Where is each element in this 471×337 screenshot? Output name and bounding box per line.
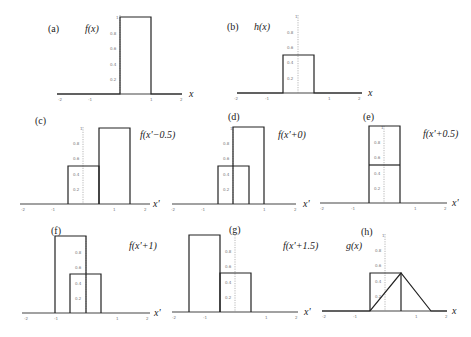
f-curve — [57, 17, 182, 94]
x-tick: -1 — [353, 314, 357, 319]
panel-title-h: g(x) — [346, 240, 363, 252]
y-tick: 0.8 — [375, 248, 382, 253]
y-tick: 0.8 — [73, 141, 80, 146]
f-shifted-curve — [189, 235, 220, 312]
y-tick: 0.4 — [287, 60, 294, 65]
x-tick: -2 — [322, 314, 326, 319]
panel-b: (b) h(x) -2 -1 1 2 0.2 0.4 0.6 0.8 1 x — [227, 14, 373, 101]
y-tick: 0.6 — [225, 264, 232, 269]
y-tick: 0.4 — [73, 172, 80, 177]
panel-label-h: (h) — [361, 226, 373, 238]
panel-title-d: f(x'+0) — [278, 129, 306, 141]
panel-f: (f) f(x'+1) -2 -1 1 2 0.2 0.4 0.6 0.8 x' — [22, 225, 161, 321]
y-tick: 0.6 — [287, 45, 294, 50]
x-tick: -2 — [24, 316, 28, 321]
y-tick: 0.8 — [223, 141, 230, 146]
x-tick: -2 — [58, 97, 62, 102]
x-tick: 2 — [294, 207, 297, 212]
g-triangle-curve — [322, 273, 447, 311]
x-tick: 2 — [444, 206, 447, 211]
x-axis-label: x' — [153, 307, 161, 318]
x-tick: -1 — [201, 207, 205, 212]
x-tick: -1 — [88, 97, 92, 102]
panel-label-c: (c) — [35, 115, 46, 127]
x-tick: 2 — [358, 96, 361, 101]
y-tick: 0.8 — [374, 140, 381, 145]
x-tick: 2 — [144, 207, 147, 212]
panel-label-d: (d) — [228, 111, 240, 123]
x-axis-label: x — [367, 87, 373, 98]
panel-a: (a) f(x) -2 -1 1 2 0.2 0.4 0.6 0.8 1 x — [48, 15, 194, 102]
y-tick: 0.2 — [110, 77, 117, 82]
x-tick: 2 — [180, 97, 183, 102]
x-axis-label: x' — [302, 198, 310, 209]
panel-h: (h) g(x) -2 -1 1 2 0.2 0.4 0.6 0.8 1 x — [322, 226, 457, 319]
y-tick: 0.4 — [110, 62, 117, 67]
y-tick: 1 — [295, 14, 298, 19]
x-axis-label: x' — [303, 306, 311, 317]
x-tick: 1 — [328, 96, 331, 101]
y-tick: 0.2 — [223, 187, 230, 192]
y-tick: 0.4 — [225, 280, 232, 285]
x-tick: 1 — [116, 316, 119, 321]
y-tick: 0.2 — [374, 186, 381, 191]
y-tick: 0.6 — [223, 156, 230, 161]
y-tick: 0.2 — [73, 187, 80, 192]
x-axis-label: x — [451, 305, 457, 316]
y-tick: 0.6 — [75, 265, 82, 270]
y-tick: 0.6 — [374, 155, 381, 160]
y-tick: 1 — [116, 15, 119, 20]
x-tick: 2 — [295, 315, 298, 320]
panel-e: (e) f(x'+0.5) -2 -1 1 2 0.2 0.4 0.6 0.8 … — [320, 111, 459, 211]
y-tick: 0.6 — [110, 46, 117, 51]
convolution-figure: (a) f(x) -2 -1 1 2 0.2 0.4 0.6 0.8 1 x (… — [0, 0, 471, 337]
x-tick: -1 — [54, 316, 58, 321]
panel-g: (g) f(x'+1.5) -2 -1 1 2 0.2 0.4 0.6 0.8 … — [172, 224, 319, 320]
x-axis-label: x' — [152, 198, 160, 209]
x-tick: 2 — [146, 316, 149, 321]
y-tick: 0.2 — [225, 295, 232, 300]
y-tick: 0.4 — [374, 171, 381, 176]
y-tick: 0.8 — [110, 31, 117, 36]
panel-d: (d) f(x'+0) -2 -1 1 2 0.2 0.4 0.6 0.8 1 … — [171, 111, 310, 212]
h-curve — [220, 273, 251, 312]
x-tick: -1 — [265, 96, 269, 101]
x-tick: -1 — [203, 315, 207, 320]
x-tick: -2 — [171, 207, 175, 212]
panel-label-e: (e) — [363, 111, 374, 123]
x-tick: -1 — [351, 206, 355, 211]
x-tick: 1 — [415, 314, 418, 319]
x-tick: 1 — [150, 97, 153, 102]
y-tick: 0.6 — [73, 156, 80, 161]
panel-label-f: (f) — [51, 225, 61, 237]
y-tick: 0.2 — [287, 76, 294, 81]
panel-title-f: f(x'+1) — [129, 240, 157, 252]
x-tick: -2 — [234, 96, 238, 101]
panel-label-g: (g) — [229, 224, 241, 236]
panel-title-b: h(x) — [254, 21, 271, 33]
y-tick: 0.4 — [75, 281, 82, 286]
x-tick: 1 — [265, 315, 268, 320]
panel-title-a: f(x) — [85, 23, 100, 35]
y-tick: 0.6 — [375, 263, 382, 268]
x-tick: -2 — [320, 206, 324, 211]
y-tick: 0.2 — [75, 296, 82, 301]
y-tick: 0.8 — [75, 250, 82, 255]
panel-label-b: (b) — [227, 21, 239, 33]
h-curve — [237, 55, 362, 93]
panel-title-e: f(x'+0.5) — [423, 128, 459, 140]
x-axis-label: x — [188, 88, 194, 99]
x-tick: -2 — [21, 207, 25, 212]
y-tick: 0.4 — [375, 279, 382, 284]
x-axis-label: x' — [451, 197, 459, 208]
panel-title-g: f(x'+1.5) — [283, 240, 319, 252]
y-tick: 1 — [80, 126, 83, 131]
y-tick: 0.8 — [287, 30, 294, 35]
f-shifted-curve — [99, 128, 130, 204]
panel-c: (c) f(x'−0.5) -2 -1 1 2 0.2 0.4 0.6 0.8 … — [20, 115, 176, 212]
panel-label-a: (a) — [48, 23, 59, 35]
x-tick: 1 — [263, 207, 266, 212]
y-tick: 1 — [382, 233, 385, 238]
x-tick: 1 — [414, 206, 417, 211]
y-tick: 0.8 — [225, 249, 232, 254]
